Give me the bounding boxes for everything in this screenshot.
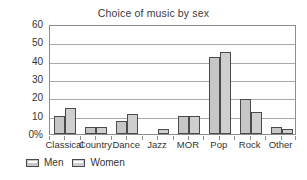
bar-men-mor — [178, 116, 189, 134]
y-axis: 0%102030405060 — [0, 25, 47, 135]
bar-men-classical — [54, 116, 65, 134]
y-axis-tick-label: 20 — [32, 93, 43, 103]
bar-women-classical — [65, 108, 76, 134]
bar-men-country — [85, 127, 96, 134]
legend-item-women[interactable]: Women — [72, 157, 124, 168]
bar-group — [81, 26, 112, 134]
x-axis-tickmark — [265, 136, 266, 140]
bars-layer — [50, 26, 295, 134]
bar-men-dance — [116, 121, 127, 134]
bar-group — [235, 26, 266, 134]
x-axis-label-dance: Dance — [112, 139, 139, 150]
plot-area — [49, 25, 296, 135]
bar-men-other — [271, 127, 282, 134]
x-axis-tickmark — [173, 136, 174, 140]
bar-group — [50, 26, 81, 134]
bar-women-country — [96, 127, 107, 134]
bar-women-jazz — [158, 129, 169, 135]
bar-group — [143, 26, 174, 134]
bar-group — [266, 26, 297, 134]
x-axis-tickmark — [234, 136, 235, 140]
y-axis-tick-label: 40 — [32, 57, 43, 67]
legend-item-men[interactable]: Men — [26, 157, 63, 168]
legend-label: Men — [44, 157, 63, 168]
legend-swatch-icon — [26, 159, 39, 167]
x-axis-label-jazz: Jazz — [147, 139, 167, 150]
x-axis: ClassicalCountryDanceJazzMORPopRockOther — [49, 136, 296, 152]
x-axis-tickmark — [203, 136, 204, 140]
bar-group — [204, 26, 235, 134]
y-axis-tick-label: 30 — [32, 75, 43, 85]
chart-title: Choice of music by sex — [0, 7, 307, 19]
bar-women-mor — [189, 116, 200, 134]
x-axis-label-mor: MOR — [177, 139, 199, 150]
y-axis-tick-label: 60 — [32, 20, 43, 30]
x-axis-label-rock: Rock — [239, 139, 261, 150]
x-axis-label-other: Other — [269, 139, 293, 150]
x-axis-label-country: Country — [79, 139, 112, 150]
bar-women-rock — [251, 112, 262, 134]
chart-legend: MenWomen — [26, 157, 125, 168]
x-axis-tickmark — [142, 136, 143, 140]
y-axis-tick-label: 50 — [32, 38, 43, 48]
legend-label: Women — [90, 157, 124, 168]
y-axis-tick-label: 10 — [32, 112, 43, 122]
bar-men-rock — [240, 99, 251, 134]
bar-group — [174, 26, 205, 134]
bar-women-dance — [127, 114, 138, 134]
y-axis-tick-label: 0% — [29, 130, 43, 140]
bar-women-other — [282, 129, 293, 135]
legend-swatch-icon — [72, 159, 85, 167]
bar-chart: Choice of music by sex 0%102030405060 Cl… — [0, 0, 307, 180]
bar-women-pop — [220, 52, 231, 135]
bar-men-pop — [209, 57, 220, 134]
bar-group — [112, 26, 143, 134]
x-axis-tickmark — [295, 136, 296, 140]
x-axis-label-pop: Pop — [210, 139, 227, 150]
